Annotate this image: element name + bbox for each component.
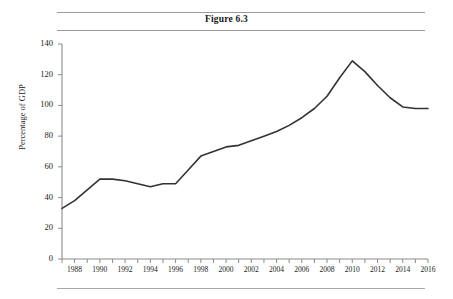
chart-plot-area: Percentage of GDP 020406080100120140 198…: [0, 0, 453, 299]
figure-rule-bottom: [57, 288, 425, 289]
chart-svg: [0, 0, 453, 299]
axis-lines: [62, 44, 428, 259]
figure-container: Figure 6.3 Percentage of GDP 02040608010…: [0, 0, 453, 299]
x-tick-marks: [62, 259, 428, 263]
data-series-line: [62, 61, 428, 208]
y-tick-marks: [58, 44, 62, 259]
